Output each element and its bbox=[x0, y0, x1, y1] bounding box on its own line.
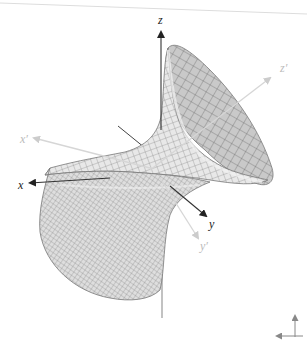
y-axis-label: y bbox=[208, 217, 215, 231]
x-prime-axis-label: x′ bbox=[19, 132, 28, 146]
hyperboloid-surface bbox=[40, 48, 268, 300]
axes-orientation-indicator[interactable] bbox=[277, 316, 303, 337]
3d-graphics-view[interactable]: z x y z′ x′ y′ bbox=[0, 0, 307, 344]
y-prime-axis-label: y′ bbox=[199, 239, 208, 253]
plane-edge-line bbox=[0, 3, 307, 14]
x-axis-label: x bbox=[17, 178, 24, 192]
z-prime-axis-label: z′ bbox=[279, 61, 288, 75]
z-axis-label: z bbox=[157, 13, 163, 27]
